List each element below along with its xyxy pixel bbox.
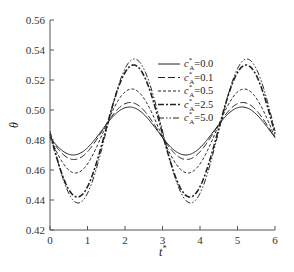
x-tick-label: 6 [272, 234, 278, 246]
legend-label: c*A=5.0 [184, 110, 213, 126]
y-axis-label: θ [7, 122, 21, 128]
y-tick-label: 0.48 [26, 134, 46, 146]
x-tick-label: 2 [122, 234, 128, 246]
plot-lines [50, 59, 275, 203]
y-tick-label: 0.46 [26, 164, 46, 176]
x-tick-label: 5 [235, 234, 241, 246]
x-tick-label: 0 [47, 234, 53, 246]
series-line [50, 59, 275, 203]
y-tick-label: 0.50 [26, 104, 46, 116]
x-tick-label: 4 [197, 234, 203, 246]
axes [50, 20, 275, 230]
line-chart: 0.420.440.460.480.500.520.540.56 0123456… [0, 0, 294, 272]
y-tick-label: 0.42 [26, 224, 45, 236]
y-tick-label: 0.44 [26, 194, 46, 206]
x-ticks: 0123456 [47, 226, 278, 246]
x-tick-label: 1 [85, 234, 91, 246]
y-tick-label: 0.56 [26, 14, 46, 26]
y-tick-label: 0.54 [26, 44, 46, 56]
x-axis-label: t* [159, 244, 166, 259]
legend: c*A=0.0c*A=0.1c*A=0.5c*A=2.5c*A=5.0 [158, 56, 213, 126]
y-tick-label: 0.52 [26, 74, 45, 86]
